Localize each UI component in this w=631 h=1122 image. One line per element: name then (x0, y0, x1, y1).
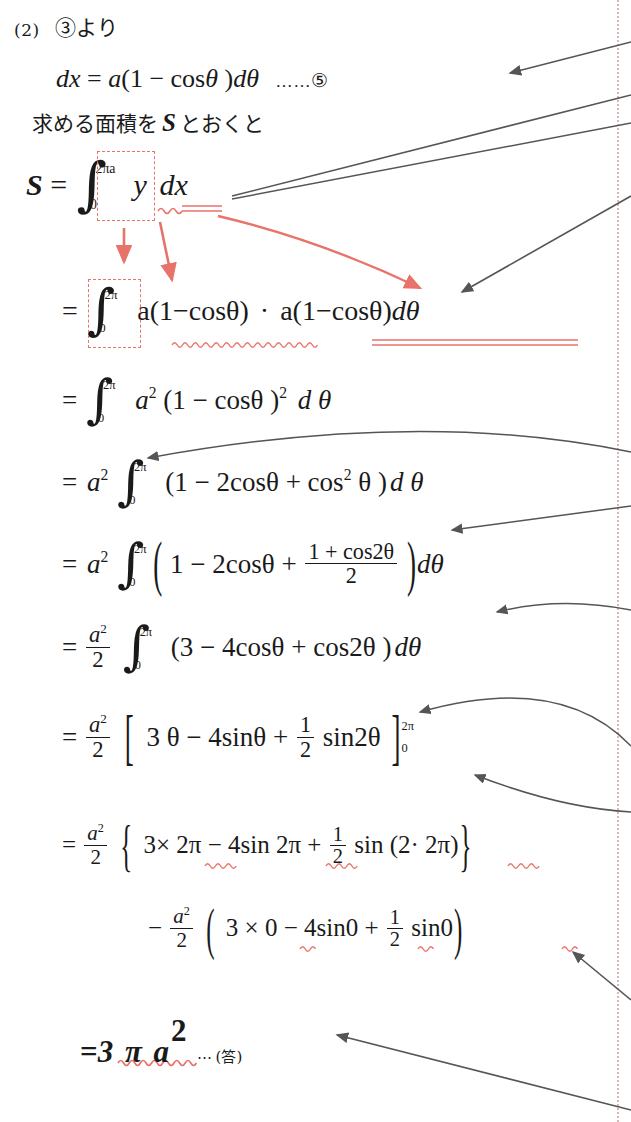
l8-fraction-numerator: a2 (84, 822, 107, 845)
line-5-half-angle: = a2 ∫ 2π 0 ( 1 − 2cosθ + 1 + cos2θ 2 )d… (62, 540, 444, 588)
l7-bracket-close-group: ] 2π 0 (391, 724, 402, 752)
l9-fraction-numerator-a: a (173, 904, 184, 928)
gray-arrow-to-line6 (497, 603, 631, 612)
line-4-expanded: = a2 ∫ 2π 0 (1 − 2cosθ + cos2 θ )d θ (62, 462, 423, 504)
l4-equals: = (62, 467, 77, 497)
eq5-tag: ⑤ (311, 70, 328, 91)
l7-bracket-open: [ (125, 708, 134, 769)
line-6-simplified: = a2 2 ∫ 2π 0 (3 − 4cosθ + cos2θ )dθ (62, 622, 421, 672)
l6-integral-lower-limit: 0 (135, 659, 141, 671)
l7-coefficient-fraction: a2 2 (86, 712, 110, 762)
l6-equals: = (62, 632, 77, 662)
gray-arrow-to-line5-fraction (452, 506, 631, 530)
red-arrow-dx-to-factor2 (218, 216, 420, 288)
red-double-underline-dx (182, 206, 222, 211)
l9-fraction-numerator-exponent: 2 (184, 904, 190, 918)
l3-dtheta: d θ (298, 385, 332, 415)
l9-term-2: − 4sin0 (284, 914, 359, 941)
red-squiggle-under-factor1 (172, 343, 318, 348)
red-dashed-box-integral-2 (88, 279, 141, 348)
red-squiggle-under-y (158, 209, 182, 214)
l9-paren-close: ) (454, 900, 462, 956)
gray-arrow-to-line9 (573, 952, 631, 1000)
l8-half-fraction: 1 2 (330, 824, 346, 868)
l9-term-1: 3 × 0 (226, 914, 278, 941)
l7-body-head: 3 θ − 4sinθ + (146, 722, 288, 752)
l9-half-denominator: 2 (387, 928, 403, 951)
l1-integral-lower-limit: 0 (90, 198, 97, 212)
l9-fraction-numerator: a2 (170, 905, 193, 928)
eq5-paren-close: ) (225, 64, 234, 93)
answer-equals: = (80, 1034, 98, 1069)
red-squiggle-l8-t4 (508, 864, 539, 869)
l4-integral-upper-limit: 2π (134, 461, 146, 473)
l5-fraction-denominator: 2 (305, 563, 397, 587)
l7-fraction-numerator-a: a (89, 712, 100, 737)
gray-arrow-to-line4 (148, 431, 631, 458)
l3-integral-lower-limit: 0 (98, 412, 104, 424)
l8-brace-open: { (120, 817, 132, 873)
l8-plus: + (307, 831, 321, 858)
l7-eval-upper-limit: 2π (402, 720, 414, 732)
eq5-equals: = (87, 64, 102, 93)
l5-a: a (87, 549, 101, 579)
l5-paren-open: ( (153, 535, 162, 596)
l9-term-4: sin0 (411, 914, 453, 941)
l3-a-exponent: 2 (149, 384, 157, 401)
l5-fraction: 1 + cos2θ 2 (305, 540, 397, 588)
l7-bracket-close: ] (392, 708, 401, 769)
l2-dot-operator: · (260, 295, 269, 326)
line-3-squared: = ∫ 2π 0 a2 (1 − cosθ )2 d θ (62, 380, 331, 422)
l7-fraction-numerator: a2 (86, 712, 110, 737)
gray-arrow-to-line7-halfsin (475, 775, 631, 812)
l7-half-fraction: 1 2 (297, 713, 314, 761)
l5-a-exponent: 2 (100, 548, 108, 565)
l6-body: (3 − 4cosθ + cos2θ ) (171, 632, 392, 662)
l2-factor-2: a(1−cosθ) (280, 295, 392, 326)
red-double-underline-factor2 (372, 340, 578, 345)
l6-integral-upper-limit: 2π (140, 626, 152, 638)
l4-a: a (87, 467, 101, 497)
eq5-dtheta-theta: θ (246, 64, 259, 93)
l8-term-2: − 4sin 2π (208, 831, 301, 858)
eq5-dots: …… (275, 72, 311, 91)
l5-integral-upper-limit: 2π (134, 543, 146, 555)
answer-value: 3 π a (98, 1034, 171, 1069)
l4-integral: ∫ 2π 0 (117, 462, 144, 504)
l5-head: 1 − 2cosθ + (170, 549, 297, 579)
eq5-lhs: dx (56, 64, 81, 93)
l4-body-tail: θ ) (358, 467, 387, 497)
reference-text: ③より (55, 18, 118, 39)
area-statement: 求める面積をSとおくと (32, 110, 264, 135)
gray-line-to-ydx-upper (232, 95, 631, 196)
l5-paren-close: ) (407, 535, 416, 596)
l8-half-denominator: 2 (330, 845, 346, 868)
l5-integral: ∫ 2π 0 (117, 544, 144, 586)
l4-cos-exponent: 2 (344, 466, 352, 483)
equation-5: dx = a(1 − cosθ )dθ ……⑤ (56, 66, 328, 92)
line-8-upper-substitution: = a2 2 { 3× 2π − 4sin 2π + 1 2 sin (2· 2… (62, 822, 472, 868)
eq5-theta: θ (205, 64, 218, 93)
problem-label: (2) (14, 22, 40, 39)
l7-body-tail: sin2θ (323, 722, 381, 752)
l4-a-exponent: 2 (100, 466, 108, 483)
area-variable-S: S (158, 109, 180, 136)
l3-body-exponent: 2 (279, 384, 287, 401)
l6-fraction-numerator: a2 (86, 622, 110, 647)
l1-dx: dx (159, 168, 187, 201)
l9-minus: − (148, 914, 162, 941)
gray-arrow-to-eq5 (510, 42, 631, 73)
gray-arrow-to-factor2 (462, 196, 631, 292)
l8-term-4: sin (2· 2π) (354, 831, 458, 858)
l3-a: a (135, 385, 149, 415)
l1-lhs-S: S (26, 168, 43, 201)
l9-coefficient-fraction: a2 2 (170, 905, 193, 951)
eq5-one: 1 (130, 64, 143, 93)
l3-integral-upper-limit: 2π (103, 379, 115, 391)
gray-arrow-to-answer (337, 1035, 631, 1110)
l5-integral-lower-limit: 0 (129, 576, 135, 588)
l7-fraction-denominator: 2 (86, 737, 110, 762)
l6-dtheta: dθ (394, 632, 421, 662)
l3-body: (1 − cosθ ) (163, 385, 279, 415)
l6-fraction-numerator-a: a (89, 622, 100, 647)
